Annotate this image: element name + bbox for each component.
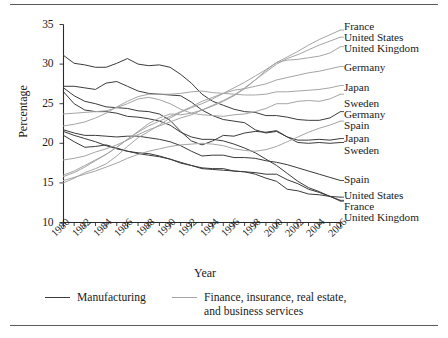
y-tick-label: 20 [28, 136, 54, 148]
y-tick-label: 15 [28, 176, 54, 188]
axes-group [60, 25, 341, 228]
series-end-label: United Kingdom [344, 43, 419, 54]
series-group [64, 30, 345, 201]
legend-item-finance: Finance, insurance, real estate, and bus… [172, 291, 346, 318]
series-end-label: Spain [344, 120, 369, 131]
legend-swatch-finance [172, 297, 197, 298]
figure-container: Percentage Year 101520253035 19801982198… [0, 0, 448, 338]
series-line-spain-finance [64, 121, 341, 180]
y-tick-label: 35 [28, 18, 54, 30]
series-end-label: Japan [344, 82, 369, 93]
legend-label-manufacturing: Manufacturing [77, 291, 146, 305]
legend-swatch-manufacturing [45, 297, 70, 298]
series-end-label: Germany [344, 62, 385, 73]
series-line-france-manufacturing [64, 131, 341, 200]
chart-legend: Manufacturing Finance, insurance, real e… [0, 291, 448, 325]
series-end-label: United Kingdom [344, 212, 419, 223]
series-end-label: Japan [344, 133, 369, 144]
y-tick-label: 30 [28, 57, 54, 69]
y-tick-label: 25 [28, 97, 54, 109]
series-line-sweden-finance [64, 94, 341, 116]
series-line-germany-finance [64, 66, 341, 174]
series-end-label: Sweden [344, 145, 379, 156]
y-tick-label: 10 [28, 216, 54, 228]
legend-label-finance: Finance, insurance, real estate, and bus… [204, 291, 346, 318]
legend-item-manufacturing: Manufacturing [45, 291, 146, 305]
x-axis-label: Year [150, 266, 260, 281]
series-line-united-states-finance [64, 37, 341, 160]
series-end-label: Spain [344, 174, 369, 185]
